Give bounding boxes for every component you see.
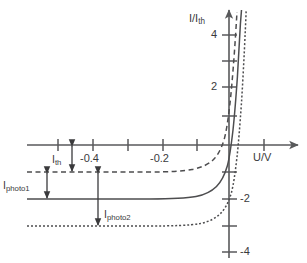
- x-tick-label-minus-0-2: -0.2: [150, 153, 169, 164]
- annotation-label-iphoto2: Iphoto2: [104, 209, 131, 222]
- y-axis-label-base: I/I: [189, 12, 198, 24]
- photodiode-iv-chart: I/Ith U/V 4 2 -2 -4 -0.4 -0.2 Ith Iphoto…: [0, 0, 307, 263]
- curve-photo1-solid: [27, 10, 242, 199]
- annotation-label-ith: Ith: [52, 154, 61, 167]
- y-tick-label-4: 4: [211, 29, 217, 40]
- x-axis: [27, 139, 298, 151]
- chart-plot-area: [0, 0, 307, 263]
- annotation-label-iphoto1-sub: photo1: [6, 184, 30, 193]
- x-tick-label-minus-0-4: -0.4: [80, 153, 99, 164]
- y-axis: [222, 10, 237, 258]
- curve-photo2-dotted: [27, 10, 246, 226]
- y-tick-label-minus-4: -4: [240, 246, 250, 257]
- annotation-label-iphoto1: Iphoto1: [3, 180, 30, 193]
- x-axis-label: U/V: [253, 152, 271, 163]
- annotation-label-ith-sub: th: [55, 158, 61, 167]
- y-axis-label: I/Ith: [189, 13, 205, 26]
- annotation-label-iphoto2-sub: photo2: [107, 213, 131, 222]
- y-axis-label-sub: th: [198, 17, 205, 26]
- y-tick-label-minus-2: -2: [240, 193, 250, 204]
- y-tick-label-2: 2: [211, 81, 217, 92]
